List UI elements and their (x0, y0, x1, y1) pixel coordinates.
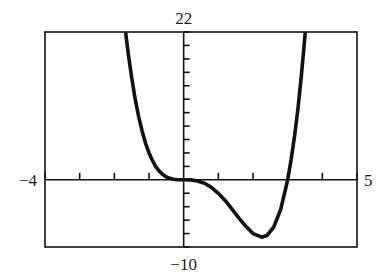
graph-window: 22 −10 −4 5 (0, 0, 381, 279)
ymax-label: 22 (175, 9, 192, 28)
xmax-label: 5 (364, 171, 373, 190)
viewing-window-frame (45, 32, 357, 247)
function-curve (126, 32, 306, 237)
axis-ticks (45, 32, 357, 247)
ymin-label: −10 (170, 255, 197, 274)
xmin-label: −4 (19, 171, 38, 190)
